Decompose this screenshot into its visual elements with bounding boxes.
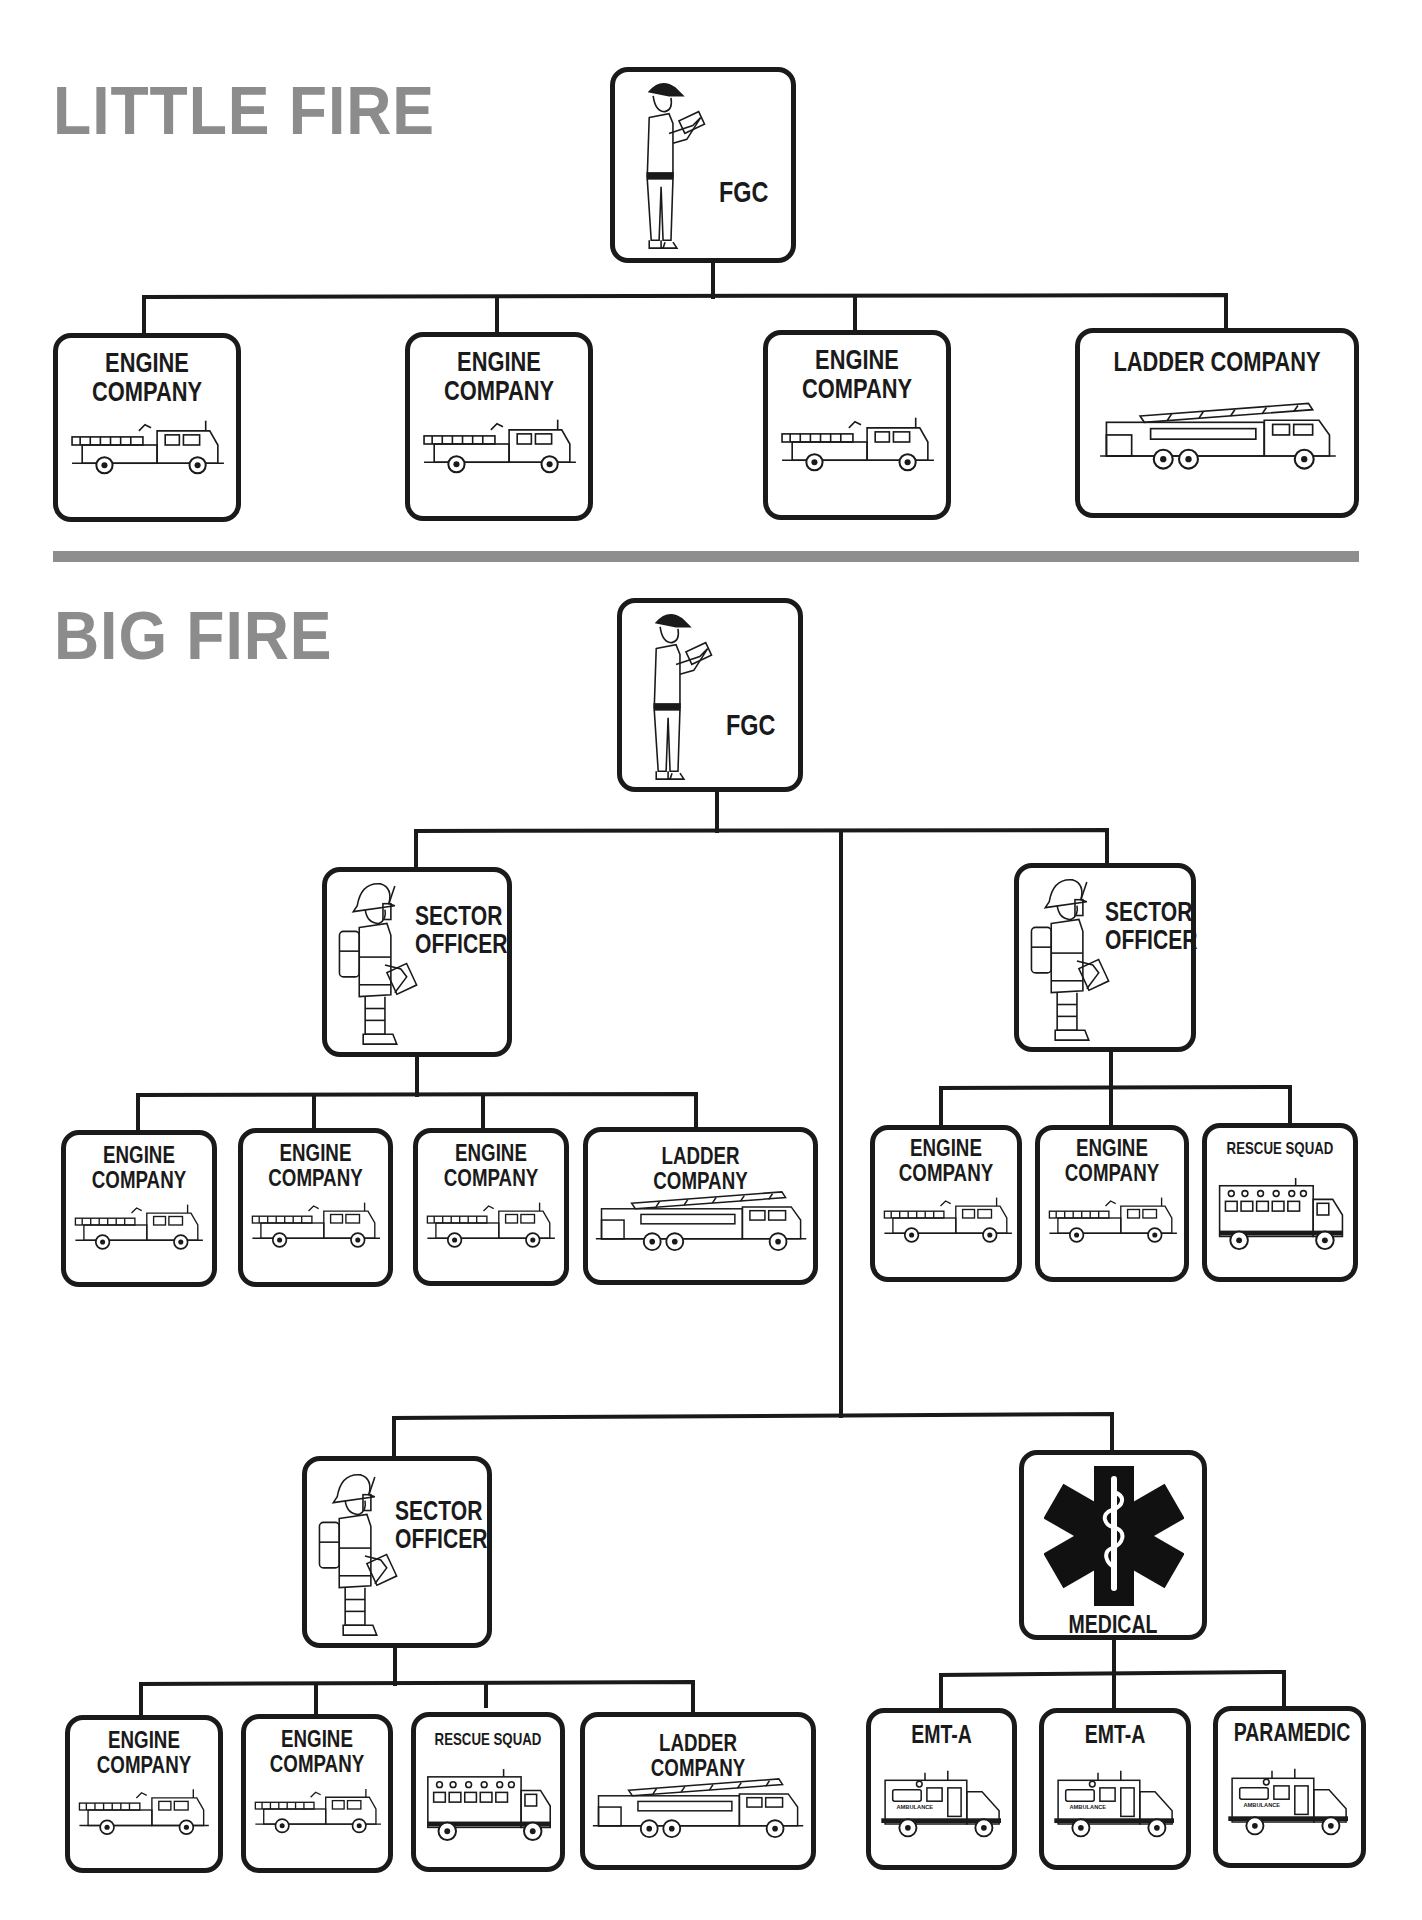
little-fire-engine-company-1: ENGINE COMPANY xyxy=(53,333,241,522)
unit-label-line1: ENGINE xyxy=(788,345,927,374)
unit-label-line2: COMPANY xyxy=(262,1752,373,1777)
little-fire-fgc-box: FGC xyxy=(610,67,796,263)
big-fire-fgc-box: FGC xyxy=(617,598,803,792)
unit-label: EMT-A xyxy=(1060,1721,1171,1747)
unit-label: LADDER COMPANY xyxy=(1110,347,1324,376)
org-chart-connectors xyxy=(0,0,1422,1920)
unit-label-line2: COMPANY xyxy=(82,1168,196,1193)
engine-truck-icon xyxy=(76,1784,214,1836)
unit-label: EMT-A xyxy=(887,1721,997,1747)
unit-label-line2: COMPANY xyxy=(891,1161,1002,1186)
unit-label-line2: COMPANY xyxy=(259,1166,372,1191)
sector-right-engine-2: ENGINE COMPANY xyxy=(1035,1125,1189,1282)
fgc-label: FGC xyxy=(719,176,775,207)
unit-label: ENGINE COMPANY xyxy=(259,1141,372,1191)
sector-bottom-engine-1: ENGINE COMPANY xyxy=(65,1715,223,1873)
unit-label-line1: ENGINE xyxy=(891,1136,1002,1161)
unit-label-line2: COMPANY xyxy=(430,376,569,405)
engine-truck-icon xyxy=(881,1192,1017,1244)
firefighter-radio-icon xyxy=(315,1467,405,1645)
ladder-truck-icon xyxy=(594,1188,810,1254)
unit-label-line1: ENGINE xyxy=(259,1141,372,1166)
unit-label-line2: COMPANY xyxy=(86,1753,201,1778)
unit-label: PARAMEDIC xyxy=(1234,1719,1346,1745)
little-fire-ladder-company: LADDER COMPANY xyxy=(1075,328,1359,518)
unit-label-line1: ENGINE xyxy=(82,1143,196,1168)
unit-label-line2: COMPANY xyxy=(788,374,927,403)
ambulance-icon xyxy=(1224,1765,1358,1841)
unit-label: ENGINE COMPANY xyxy=(891,1136,1002,1186)
sector-left-ladder: LADDER COMPANY xyxy=(583,1127,818,1285)
sector-bottom-ladder: LADDER COMPANY xyxy=(580,1712,816,1870)
unit-label: LADDER COMPANY xyxy=(613,1144,789,1194)
rescue-squad-truck-icon xyxy=(422,1767,558,1845)
engine-truck-icon xyxy=(424,1197,560,1249)
sector-left-engine-1: ENGINE COMPANY xyxy=(61,1130,217,1287)
unit-label: RESCUE SQUAD xyxy=(1223,1140,1337,1158)
unit-label-line2: COMPANY xyxy=(78,377,217,406)
ladder-truck-icon xyxy=(1098,399,1340,473)
sector-officer-bottom: SECTOR OFFICER xyxy=(302,1456,492,1648)
label-line2: OFFICER xyxy=(415,930,487,958)
medical-label: MEDICAL xyxy=(1044,1611,1183,1637)
engine-truck-icon xyxy=(249,1197,385,1249)
sector-bottom-rescue-squad: RESCUE SQUAD xyxy=(411,1712,565,1872)
fgc-label: FGC xyxy=(726,709,782,740)
engine-truck-icon xyxy=(68,414,230,476)
unit-label-line1: ENGINE xyxy=(1056,1136,1168,1161)
engine-truck-icon xyxy=(1046,1192,1182,1244)
sector-left-engine-2: ENGINE COMPANY xyxy=(238,1128,393,1287)
unit-label: ENGINE COMPANY xyxy=(788,345,927,403)
unit-label: LADDER COMPANY xyxy=(610,1731,786,1781)
engine-truck-icon xyxy=(420,413,582,475)
unit-label: ENGINE COMPANY xyxy=(86,1728,201,1778)
unit-label-line1: ENGINE xyxy=(434,1141,548,1166)
star-of-life-icon xyxy=(1044,1463,1184,1609)
fire-ground-commander-icon xyxy=(636,609,716,787)
firefighter-radio-icon xyxy=(1027,872,1117,1050)
unit-label-line1: ENGINE xyxy=(78,348,217,377)
unit-label-line2: COMPANY xyxy=(1056,1161,1168,1186)
unit-label-line1: ENGINE xyxy=(430,347,569,376)
label-line1: SECTOR xyxy=(415,902,487,930)
sector-left-engine-3: ENGINE COMPANY xyxy=(413,1128,569,1286)
medical-emt-a-1: EMT-A xyxy=(866,1708,1017,1870)
label-line2: OFFICER xyxy=(1105,926,1172,954)
little-fire-engine-company-2: ENGINE COMPANY xyxy=(405,332,593,521)
unit-label-line1: ENGINE xyxy=(262,1727,373,1752)
unit-label-line1: ENGINE xyxy=(86,1728,201,1753)
ladder-truck-icon xyxy=(591,1775,807,1841)
sector-officer-label: SECTOR OFFICER xyxy=(395,1497,467,1553)
unit-label: ENGINE COMPANY xyxy=(1056,1136,1168,1186)
engine-truck-icon xyxy=(778,411,940,473)
sector-officer-label: SECTOR OFFICER xyxy=(1105,898,1172,954)
medical-emt-a-2: EMT-A xyxy=(1039,1708,1191,1870)
medical-paramedic: PARAMEDIC xyxy=(1213,1706,1366,1868)
unit-label: ENGINE COMPANY xyxy=(82,1143,196,1193)
engine-truck-icon xyxy=(72,1199,208,1251)
ambulance-icon xyxy=(877,1767,1011,1843)
unit-label: ENGINE COMPANY xyxy=(262,1727,373,1777)
label-line1: SECTOR xyxy=(395,1497,467,1525)
sector-officer-left: SECTOR OFFICER xyxy=(322,867,512,1057)
fire-ground-commander-icon xyxy=(629,78,709,256)
label-line2: OFFICER xyxy=(395,1525,467,1553)
unit-label: ENGINE COMPANY xyxy=(430,347,569,405)
sector-right-rescue-squad: RESCUE SQUAD xyxy=(1202,1123,1358,1282)
engine-truck-icon xyxy=(252,1783,386,1835)
unit-label: ENGINE COMPANY xyxy=(78,348,217,406)
sector-bottom-engine-2: ENGINE COMPANY xyxy=(241,1714,393,1873)
sector-right-engine-1: ENGINE COMPANY xyxy=(870,1125,1022,1282)
unit-label: ENGINE COMPANY xyxy=(434,1141,548,1191)
rescue-squad-truck-icon xyxy=(1213,1176,1351,1254)
little-fire-engine-company-3: ENGINE COMPANY xyxy=(763,330,951,520)
firefighter-radio-icon xyxy=(335,876,425,1054)
unit-label: RESCUE SQUAD xyxy=(432,1731,544,1749)
unit-label-line2: COMPANY xyxy=(434,1166,548,1191)
sector-officer-label: SECTOR OFFICER xyxy=(415,902,487,958)
ambulance-icon xyxy=(1050,1767,1184,1843)
sector-officer-right: SECTOR OFFICER xyxy=(1014,863,1196,1052)
medical-box: MEDICAL xyxy=(1019,1450,1207,1640)
label-line1: SECTOR xyxy=(1105,898,1172,926)
